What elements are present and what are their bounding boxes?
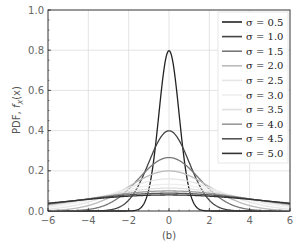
x-tick-label: 6 bbox=[287, 215, 293, 226]
legend-label: σ = 2.0 bbox=[246, 60, 283, 71]
y-tick-label: 0.0 bbox=[28, 206, 44, 217]
y-tick-label: 0.6 bbox=[28, 85, 44, 96]
y-tick-label: 0.8 bbox=[28, 45, 44, 56]
legend-label: σ = 1.0 bbox=[246, 31, 283, 42]
y-tick-label: 0.4 bbox=[28, 125, 44, 136]
x-tick-label: 4 bbox=[246, 215, 252, 226]
legend-label: σ = 4.5 bbox=[246, 133, 283, 144]
pdf-chart: −6−4−202460.00.20.40.60.81.0 σ = 0.5σ = … bbox=[0, 0, 296, 247]
y-tick-label: 0.2 bbox=[28, 165, 44, 176]
x-tick-label: −4 bbox=[81, 215, 96, 226]
legend-label: σ = 3.5 bbox=[246, 104, 283, 115]
legend-label: σ = 1.5 bbox=[246, 46, 283, 57]
legend-label: σ = 5.0 bbox=[246, 148, 283, 159]
legend: σ = 0.5σ = 1.0σ = 1.5σ = 2.0σ = 2.5σ = 3… bbox=[218, 12, 288, 163]
y-axis-label: PDF, fX(x) bbox=[11, 86, 25, 134]
x-tick-label: −6 bbox=[41, 215, 56, 226]
x-tick-label: 2 bbox=[206, 215, 212, 226]
legend-label: σ = 3.0 bbox=[246, 90, 283, 101]
legend-label: σ = 2.5 bbox=[246, 75, 283, 86]
legend-label: σ = 0.5 bbox=[246, 17, 283, 28]
x-tick-label: 0 bbox=[166, 215, 172, 226]
legend-label: σ = 4.0 bbox=[246, 119, 283, 130]
y-tick-label: 1.0 bbox=[28, 5, 44, 16]
x-tick-label: −2 bbox=[121, 215, 136, 226]
caption-label: (b) bbox=[162, 230, 176, 241]
